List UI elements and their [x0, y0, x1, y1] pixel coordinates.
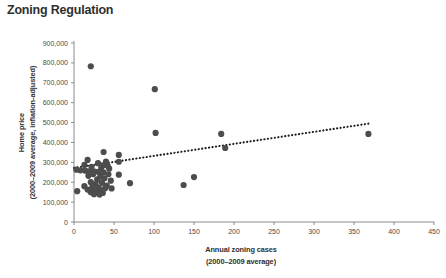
y-axis: 0100,000200,000300,000400,000500,000600,… [43, 40, 74, 226]
y-tick-label: 0 [64, 219, 68, 226]
x-tick-label: 50 [110, 228, 118, 235]
zoning-regulation-chart: Zoning Regulation 0100,000200,000300,000… [0, 0, 446, 278]
y-tick-label: 800,000 [43, 59, 68, 66]
x-tick-label: 350 [348, 228, 360, 235]
x-tick-label: 300 [308, 228, 320, 235]
y-tick-label: 400,000 [43, 139, 68, 146]
y-axis-title: Home price [17, 113, 26, 152]
x-axis-title: Annual zoning cases [205, 245, 277, 254]
scatter-plot: 0100,000200,000300,000400,000500,000600,… [0, 0, 446, 278]
y-tick-label: 700,000 [43, 79, 68, 86]
data-point [218, 131, 224, 137]
y-tick-label: 200,000 [43, 179, 68, 186]
x-tick-label: 150 [188, 228, 200, 235]
data-point [116, 152, 122, 158]
y-tick-label: 300,000 [43, 159, 68, 166]
data-point [191, 174, 197, 180]
data-point [222, 145, 228, 151]
x-tick-label: 250 [268, 228, 280, 235]
data-point [181, 182, 187, 188]
data-point [108, 178, 114, 184]
data-point [101, 149, 107, 155]
data-point [153, 130, 159, 136]
x-tick-label: 200 [228, 228, 240, 235]
data-point [74, 188, 80, 194]
y-tick-label: 500,000 [43, 119, 68, 126]
x-tick-label: 450 [428, 228, 440, 235]
x-tick-label: 100 [148, 228, 160, 235]
y-tick-label: 900,000 [43, 40, 68, 47]
y-tick-label: 100,000 [43, 199, 68, 206]
y-tick-label: 600,000 [43, 99, 68, 106]
data-point [97, 191, 103, 197]
data-point [81, 162, 87, 168]
data-point [116, 172, 122, 178]
data-point [91, 191, 97, 197]
data-point [109, 185, 115, 191]
data-point [365, 131, 371, 137]
data-point [116, 159, 122, 165]
data-point [152, 86, 158, 92]
x-axis: 050100150200250300350400450 [72, 222, 440, 235]
data-point [127, 180, 133, 186]
x-tick-label: 0 [72, 228, 76, 235]
x-axis-subtitle: (2000–2009 average) [206, 257, 277, 266]
y-axis-subtitle: (2000–2009 average, inflation-adjusted) [28, 65, 37, 199]
x-tick-label: 400 [388, 228, 400, 235]
data-point [88, 63, 94, 69]
data-point [106, 166, 112, 172]
data-point [85, 173, 91, 179]
